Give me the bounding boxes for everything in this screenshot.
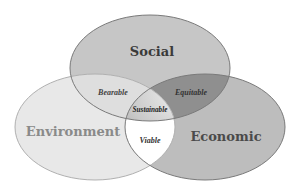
social-label: Social xyxy=(130,44,174,59)
bearable-label: Bearable xyxy=(97,88,128,97)
economic-label: Economic xyxy=(190,129,261,144)
sustainable-label: Sustainable xyxy=(133,106,169,114)
environment-label: Environment xyxy=(26,124,120,139)
equitable-label: Equitable xyxy=(174,88,207,97)
venn-diagram: Social Environment Economic Bearable Equ… xyxy=(0,0,299,194)
viable-label: Viable xyxy=(140,136,161,145)
